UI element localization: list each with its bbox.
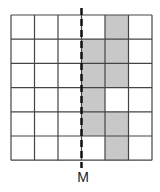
shaded-cell	[105, 136, 129, 160]
mirror-line-label: M	[75, 169, 91, 185]
shaded-cell	[105, 39, 129, 63]
symmetry-grid-diagram	[0, 0, 160, 192]
shaded-cell	[105, 15, 129, 39]
shaded-cell	[82, 112, 106, 136]
shaded-cell	[105, 112, 129, 136]
shaded-cell	[82, 39, 106, 63]
shaded-cell	[82, 88, 106, 112]
shaded-cell	[82, 63, 106, 87]
shaded-cell	[105, 63, 129, 87]
